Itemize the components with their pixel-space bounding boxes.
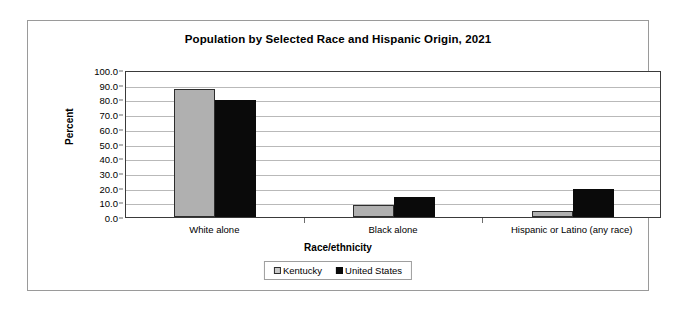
bar-united-states-black-alone <box>394 197 435 217</box>
chart-frame: Population by Selected Race and Hispanic… <box>27 20 649 291</box>
legend-item-united-states: United States <box>336 265 402 276</box>
chart-legend: KentuckyUnited States <box>264 261 412 280</box>
y-axis-tick <box>119 129 123 130</box>
y-axis-tick <box>119 173 123 174</box>
x-axis-title: Race/ethnicity <box>28 242 648 253</box>
x-axis-category-label: Hispanic or Latino (any race) <box>511 224 632 235</box>
y-axis-tick <box>119 218 123 219</box>
y-axis-tick-label: 20.0 <box>100 183 119 194</box>
chart-title: Population by Selected Race and Hispanic… <box>28 33 648 45</box>
y-axis-tick-label: 10.0 <box>100 198 119 209</box>
bar-united-states-hispanic-or-latino-any-race- <box>573 189 614 217</box>
y-axis-tick <box>119 115 123 116</box>
y-axis-tick <box>119 85 123 86</box>
legend-label: United States <box>345 265 402 276</box>
y-axis-tick <box>119 159 123 160</box>
y-axis-tick <box>119 203 123 204</box>
y-axis-tick-labels: 0.010.020.030.040.050.060.070.080.090.01… <box>68 71 123 218</box>
y-axis-tick <box>119 144 123 145</box>
legend-label: Kentucky <box>283 265 322 276</box>
x-axis-tick <box>482 218 483 223</box>
gray-square-icon <box>274 267 281 274</box>
y-axis-tick-label: 60.0 <box>100 124 119 135</box>
bar-united-states-white-alone <box>215 100 256 217</box>
y-axis-tick <box>119 71 123 72</box>
y-axis-tick-label: 90.0 <box>100 80 119 91</box>
gridline <box>126 87 660 88</box>
plot-area <box>125 71 661 218</box>
bar-kentucky-white-alone <box>174 89 215 217</box>
y-axis-tick-label: 80.0 <box>100 95 119 106</box>
y-axis-tick-label: 70.0 <box>100 110 119 121</box>
plot-wrapper <box>125 71 661 218</box>
y-axis-tick <box>119 100 123 101</box>
y-axis-tick-label: 0.0 <box>105 213 118 224</box>
legend-item-kentucky: Kentucky <box>274 265 322 276</box>
black-square-icon <box>336 267 343 274</box>
x-axis-category-label: Black alone <box>368 224 417 235</box>
y-axis-tick-label: 40.0 <box>100 154 119 165</box>
bar-kentucky-hispanic-or-latino-any-race- <box>532 211 573 217</box>
x-axis-category-label: White alone <box>189 224 239 235</box>
bar-kentucky-black-alone <box>353 205 394 217</box>
y-axis-tick <box>119 188 123 189</box>
y-axis-tick-label: 50.0 <box>100 139 119 150</box>
y-axis-tick-label: 100.0 <box>94 66 118 77</box>
y-axis-tick-label: 30.0 <box>100 168 119 179</box>
x-axis-tick <box>304 218 305 223</box>
